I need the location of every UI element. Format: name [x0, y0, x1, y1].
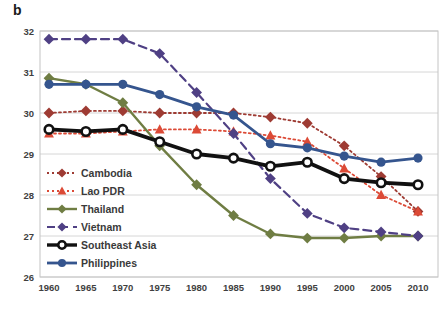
legend-item-philippines: Philippines — [46, 254, 156, 272]
y-tick-label: 29 — [23, 149, 34, 160]
vietnam-legend-marker-icon — [46, 220, 78, 234]
y-tick-label: 32 — [23, 26, 34, 37]
cambodia-legend-marker-icon — [46, 166, 78, 180]
x-tick-label: 1980 — [186, 282, 207, 293]
chart-legend: CambodiaLao PDRThailandVietnamSoutheast … — [46, 164, 156, 272]
legend-item-thailand: Thailand — [46, 200, 156, 218]
x-tick-label: 1965 — [75, 282, 97, 293]
y-tick-label: 26 — [23, 272, 34, 283]
philippines-legend-marker-icon — [46, 256, 78, 270]
y-tick-label: 31 — [23, 67, 34, 78]
x-tick-label: 1960 — [38, 282, 59, 293]
x-tick-label: 1990 — [260, 282, 281, 293]
x-tick-label: 1975 — [149, 282, 171, 293]
legend-label: Southeast Asia — [81, 239, 156, 251]
thailand-legend-marker-icon — [46, 202, 78, 216]
figure-panel: b 26272829303132196019651970197519801985… — [0, 0, 445, 309]
southeast-asia-legend-marker-icon — [46, 238, 78, 252]
legend-label: Vietnam — [81, 221, 122, 233]
legend-label: Cambodia — [81, 167, 132, 179]
legend-item-lao-pdr: Lao PDR — [46, 182, 156, 200]
legend-label: Philippines — [81, 257, 137, 269]
y-tick-label: 28 — [23, 190, 34, 201]
x-tick-label: 1995 — [297, 282, 319, 293]
x-tick-label: 1985 — [223, 282, 245, 293]
legend-label: Lao PDR — [81, 185, 125, 197]
y-tick-label: 27 — [23, 231, 34, 242]
legend-item-vietnam: Vietnam — [46, 218, 156, 236]
x-tick-label: 2005 — [371, 282, 393, 293]
y-tick-label: 30 — [23, 108, 34, 119]
legend-item-cambodia: Cambodia — [46, 164, 156, 182]
legend-item-southeast-asia: Southeast Asia — [46, 236, 156, 254]
legend-label: Thailand — [81, 203, 124, 215]
x-tick-label: 2010 — [407, 282, 428, 293]
x-tick-label: 2000 — [334, 282, 355, 293]
lao-pdr-legend-marker-icon — [46, 184, 78, 198]
x-tick-label: 1970 — [112, 282, 133, 293]
